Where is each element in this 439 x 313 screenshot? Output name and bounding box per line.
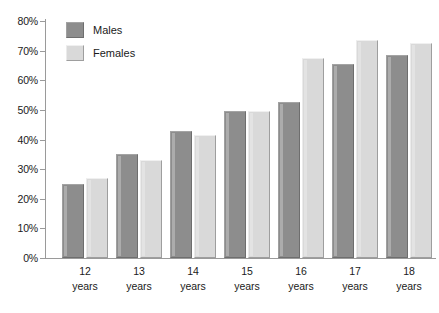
chart-legend: Males Females: [66, 19, 135, 65]
bar-females-13: [140, 160, 162, 258]
y-axis-tick-label: 40%: [4, 135, 38, 145]
x-label-age: 16: [295, 265, 307, 277]
bar-highlight: [304, 60, 307, 256]
bar-highlight: [226, 113, 229, 256]
bar-males-18: [386, 55, 408, 258]
bar-females-17: [356, 40, 378, 258]
bar-highlight: [250, 113, 253, 256]
x-label-age: 13: [133, 265, 145, 277]
bar-highlight: [172, 133, 175, 256]
bar-group: [386, 21, 432, 258]
bar-males-17: [332, 64, 354, 258]
x-label-age: 12: [79, 265, 91, 277]
bar-highlight: [64, 186, 67, 256]
bar-highlight: [358, 42, 361, 256]
x-axis-line: [45, 258, 436, 259]
x-label-age: 14: [187, 265, 199, 277]
bar-males-14: [170, 131, 192, 258]
y-axis-tick-label: 70%: [4, 46, 38, 56]
bar-group: [170, 21, 216, 258]
bar-females-12: [86, 178, 108, 258]
scan-edge-artifact: [240, 306, 439, 313]
bar-chart: 80%70%60%50%40%30%20%10%0% 12years13year…: [0, 0, 439, 313]
bar-highlight: [142, 162, 145, 256]
bar-group: [224, 21, 270, 258]
bar-females-18: [410, 43, 432, 258]
legend-swatch-females: [66, 45, 84, 61]
bar-highlight: [118, 156, 121, 256]
y-axis-tick-label: 60%: [4, 75, 38, 85]
bar-males-15: [224, 111, 246, 258]
x-label-unit: years: [374, 279, 439, 294]
bar-highlight: [334, 66, 337, 256]
bar-females-15: [248, 111, 270, 258]
bar-males-16: [278, 102, 300, 258]
bar-females-14: [194, 135, 216, 258]
y-axis-tick-label: 0%: [4, 253, 38, 263]
x-label-age: 15: [241, 265, 253, 277]
bar-group: [332, 21, 378, 258]
y-axis-tick-label: 20%: [4, 194, 38, 204]
x-label-age: 17: [349, 265, 361, 277]
x-axis-label-18: 18years: [374, 264, 439, 294]
y-axis-tick-label: 30%: [4, 164, 38, 174]
bar-highlight: [280, 104, 283, 256]
legend-item-females: Females: [66, 42, 135, 63]
bar-highlight: [388, 57, 391, 256]
y-axis-tick-label: 80%: [4, 16, 38, 26]
y-axis-tick-label: 10%: [4, 223, 38, 233]
y-axis-tick-label: 50%: [4, 105, 38, 115]
bar-males-12: [62, 184, 84, 258]
x-label-age: 18: [403, 265, 415, 277]
bar-highlight: [412, 45, 415, 256]
bar-highlight: [196, 137, 199, 256]
legend-item-males: Males: [66, 19, 135, 40]
bar-females-16: [302, 58, 324, 258]
bar-group: [278, 21, 324, 258]
bar-males-13: [116, 154, 138, 258]
y-axis-tick: [40, 258, 46, 259]
legend-swatch-males: [66, 22, 84, 38]
legend-label-females: Females: [93, 47, 135, 59]
bar-highlight: [88, 180, 91, 256]
legend-label-males: Males: [93, 24, 122, 36]
